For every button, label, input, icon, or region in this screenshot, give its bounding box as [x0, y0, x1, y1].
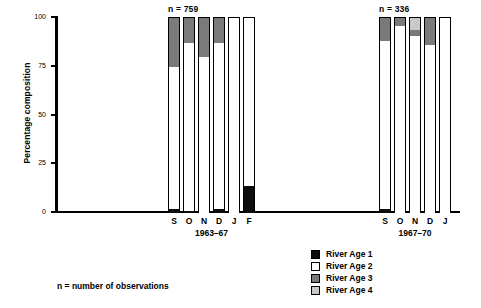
stacked-bar [394, 17, 406, 212]
group-n-label: n = 759 [168, 4, 198, 14]
bar-segment-age3 [199, 18, 209, 57]
bar-segment-age2 [380, 41, 390, 209]
bar-segment-age3 [425, 18, 435, 45]
bar-segment-age4 [410, 18, 420, 30]
footnote: n = number of observations [57, 281, 169, 291]
stacked-bar [228, 17, 240, 212]
stacked-bar [409, 17, 421, 212]
bar-segment-age1 [214, 209, 224, 213]
bar-segment-age1 [184, 211, 194, 213]
bar-segment-age3 [214, 18, 224, 43]
x-tick-label: F [239, 216, 259, 226]
bar-segment-age2 [440, 18, 450, 213]
legend-label: River Age 3 [326, 274, 372, 283]
stacked-bar [183, 17, 195, 212]
bar-segment-age3 [395, 18, 405, 26]
group-period-label: 1963–67 [148, 228, 275, 238]
group-period-label: 1967–70 [359, 228, 471, 238]
stacked-bar [379, 17, 391, 212]
bar-segment-age2 [184, 43, 194, 211]
stacked-bar [198, 17, 210, 212]
legend-label: River Age 4 [326, 286, 372, 295]
plot-area [0, 0, 481, 212]
bar-segment-age2 [199, 57, 209, 213]
x-tick-label: J [435, 216, 455, 226]
bar-segment-age3 [184, 18, 194, 43]
stacked-bar [243, 17, 255, 212]
stacked-bar [168, 17, 180, 212]
bar-segment-age2 [244, 18, 254, 186]
legend-label: River Age 2 [326, 262, 372, 271]
bar-segment-age2 [395, 26, 405, 213]
bar-segment-age3 [169, 18, 179, 67]
legend-swatch-age3 [311, 274, 320, 283]
legend-swatch-age4 [311, 286, 320, 295]
stacked-bar [424, 17, 436, 212]
bar-segment-age2 [169, 67, 179, 209]
legend: River Age 1River Age 2River Age 3River A… [311, 248, 372, 296]
stacked-bar [213, 17, 225, 212]
legend-item: River Age 1 [311, 248, 372, 260]
bar-segment-age3 [380, 18, 390, 41]
legend-item: River Age 2 [311, 260, 372, 272]
legend-item: River Age 4 [311, 284, 372, 296]
legend-label: River Age 1 [326, 250, 372, 259]
bar-segment-age1 [244, 186, 254, 213]
bar-segment-age2 [214, 43, 224, 209]
group-n-label: n = 336 [379, 4, 409, 14]
legend-swatch-age2 [311, 262, 320, 271]
stacked-bar [439, 17, 451, 212]
bar-segment-age1 [169, 209, 179, 213]
bar-segment-age2 [229, 18, 239, 213]
bar-segment-age1 [380, 209, 390, 213]
bar-segment-age2 [425, 45, 435, 213]
legend-swatch-age1 [311, 250, 320, 259]
bar-segment-age2 [410, 36, 420, 213]
legend-item: River Age 3 [311, 272, 372, 284]
chart-figure: Percentage composition 0255075100 SONDJF… [0, 0, 481, 308]
